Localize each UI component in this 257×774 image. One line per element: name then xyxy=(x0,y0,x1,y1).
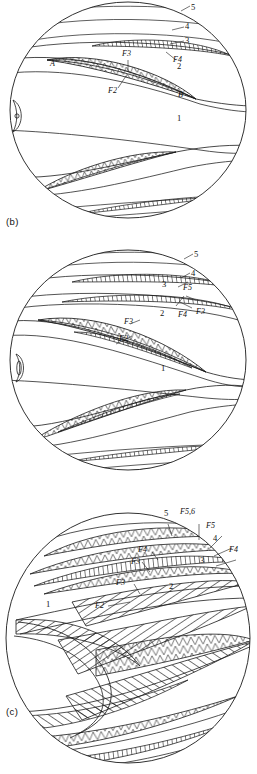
panel-b-diagram xyxy=(0,0,257,240)
panel-c-diagram xyxy=(0,240,257,490)
fold-label-f4-c: F4 xyxy=(178,311,187,319)
panel-c: 5 4 3 2 1 F5 F4 F3 F3 F2 (c) xyxy=(0,240,257,490)
fold-label-f2-d: F2 xyxy=(95,602,104,610)
fold-label-f4-b: F4 xyxy=(173,56,182,64)
layer-label-5-b: 5 xyxy=(191,3,195,11)
panel-d-diagram xyxy=(0,490,257,774)
layer-label-4-b: 4 xyxy=(185,22,189,30)
fold-label-f2-c: F2 xyxy=(119,335,128,343)
point-label-b-b: B xyxy=(178,91,183,99)
panel-caption-b: (b) xyxy=(6,216,19,227)
layer-label-5-d: 5 xyxy=(164,509,168,517)
layer-label-1-d: 1 xyxy=(46,600,50,608)
layer-label-2-c: 2 xyxy=(160,309,164,317)
fold-label-f3-inner-c: F3 xyxy=(124,318,133,326)
layer-label-4-d: 4 xyxy=(213,534,217,542)
fold-label-f5-d: F5 xyxy=(206,522,215,530)
fold-label-f3-right-c: F3 xyxy=(196,308,205,316)
layer-label-2-d: 2 xyxy=(169,582,173,590)
fold-label-f2-b: F2 xyxy=(108,87,117,95)
panel-b: 5 4 3 2 1 F4 F3 F2 A B (b) xyxy=(0,0,257,240)
fold-label-f56-d: F5,6 xyxy=(180,508,195,516)
layer-label-5-c: 5 xyxy=(194,250,198,258)
sphere-outline-b xyxy=(10,2,246,218)
layer-label-3-d: 3 xyxy=(200,556,204,564)
fold-label-f5-c: F5 xyxy=(183,284,192,292)
fold-label-f4-inner-d: F4 xyxy=(138,546,147,554)
point-label-a-b: A xyxy=(50,60,55,68)
panel-d: 5 F5,6 F5 4 F4 F4 F3 3 2 F3 F2 1 (d) xyxy=(0,490,257,774)
fold-label-f3-b: F3 xyxy=(122,50,131,58)
layer-label-1-c: 1 xyxy=(161,364,165,372)
pole-marker-b xyxy=(13,100,21,132)
layer-label-3-c: 3 xyxy=(162,280,166,288)
layer-label-1-b: 1 xyxy=(177,114,181,122)
layer-label-3-b: 3 xyxy=(185,36,189,44)
pole-marker-c xyxy=(16,354,24,382)
fold-label-f4-right-d: F4 xyxy=(229,546,238,554)
fold-label-f3-upper-d: F3 xyxy=(131,558,140,566)
layer-label-4-c: 4 xyxy=(191,269,195,277)
fold-label-f3-mid-d: F3 xyxy=(116,579,125,587)
